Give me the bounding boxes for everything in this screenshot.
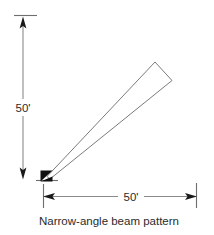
- vertical-dimension-label: 50': [16, 102, 31, 114]
- figure-caption: Narrow-angle beam pattern: [39, 215, 179, 227]
- horizontal-dimension-label: 50': [124, 191, 139, 203]
- beam-cone: [47, 62, 172, 179]
- diagram-canvas: 50' 50' Narr: [0, 0, 214, 235]
- beam-cone-group: [47, 62, 172, 179]
- horizontal-dimension-group: 50': [43, 183, 197, 208]
- beam-pattern-diagram: 50' 50' Narr: [0, 0, 214, 235]
- vertical-dimension-group: 50': [14, 16, 58, 181]
